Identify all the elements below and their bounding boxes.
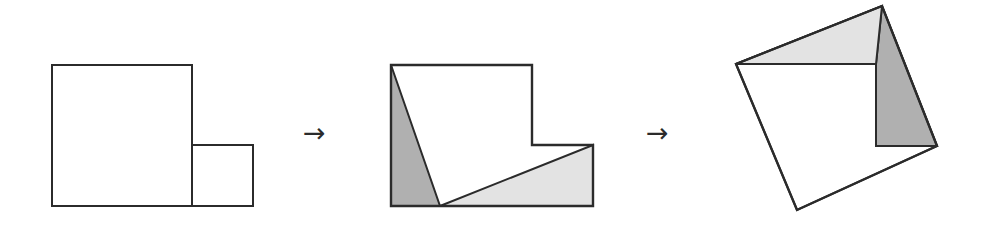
large-square xyxy=(52,65,192,206)
figure-stage: → → xyxy=(0,0,985,228)
dissection-diagram xyxy=(0,0,985,228)
panel-l-shape xyxy=(391,65,593,206)
arrow-right-icon-first: → xyxy=(303,119,326,146)
arrow-right-icon-second: → xyxy=(646,119,669,146)
small-square xyxy=(192,145,253,206)
panel-two-squares xyxy=(52,65,253,206)
panel-rotated-square xyxy=(736,6,937,210)
